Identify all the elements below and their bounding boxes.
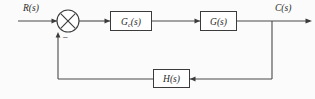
block-plant: G(s) [201, 12, 237, 31]
block-plant-argument: (s) [217, 17, 227, 28]
summing-junction [57, 10, 79, 32]
block-feedback-label: H(s) [162, 74, 180, 85]
arrowhead-into-plant [195, 19, 201, 24]
arrowhead-into-controller [105, 19, 111, 24]
diagram-canvas: Gc(s) G(s) H(s) R(s) C(s) − [0, 0, 315, 99]
block-controller-argument: (s) [131, 17, 141, 28]
block-feedback-argument: (s) [170, 74, 180, 85]
block-controller-label: Gc(s) [121, 17, 141, 28]
arrowhead-output [306, 18, 313, 23]
arrowhead-into-feedback-block [190, 77, 196, 82]
output-signal-label: C(s) [275, 3, 291, 14]
arrowhead-into-sum [52, 19, 58, 24]
block-diagram: Gc(s) G(s) H(s) R(s) C(s) − [0, 0, 315, 99]
block-controller: Gc(s) [111, 12, 152, 31]
feedback-sign-label: − [63, 32, 69, 43]
input-signal-label: R(s) [22, 3, 39, 14]
block-plant-label: G(s) [210, 17, 227, 28]
block-feedback: H(s) [154, 70, 190, 88]
arrowhead-into-sum-feedback [56, 32, 61, 38]
